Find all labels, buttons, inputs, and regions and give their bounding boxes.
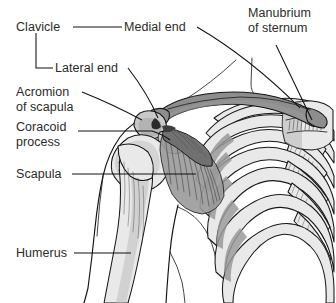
label-manubrium-line1: Manubrium: [248, 6, 311, 20]
anatomy-figure: Clavicle Medial end Manubrium of sternum…: [0, 0, 336, 303]
label-lateral-end: Lateral end: [55, 61, 118, 75]
label-coracoid-line2: process: [16, 135, 60, 149]
label-clavicle: Clavicle: [16, 20, 60, 34]
shoulder-girdle-illustration: Clavicle Medial end Manubrium of sternum…: [0, 0, 336, 303]
label-acromion-line2: of scapula: [16, 100, 73, 114]
label-manubrium-line2: of sternum: [248, 21, 308, 35]
label-medial-end: Medial end: [124, 20, 186, 34]
label-humerus: Humerus: [16, 246, 67, 260]
label-scapula: Scapula: [16, 167, 62, 181]
label-acromion-line1: Acromion: [16, 85, 69, 99]
label-coracoid-line1: Coracoid: [16, 120, 66, 134]
